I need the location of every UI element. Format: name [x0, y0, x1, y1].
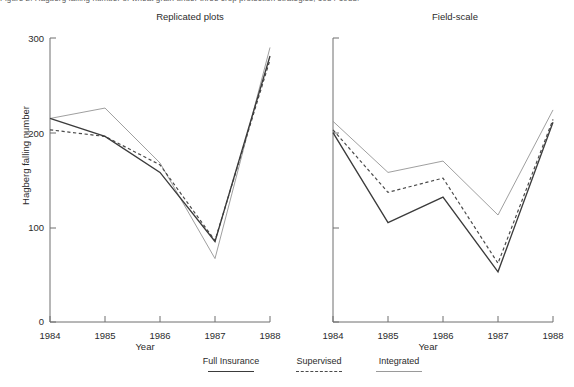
figure-root: Figure 2. Hagberg falling number of whea… — [0, 0, 574, 387]
left-panel-axes — [50, 38, 270, 322]
legend-entry-full-insurance: Full Insurance — [186, 356, 276, 372]
left-panel-series — [50, 47, 270, 258]
series-line-integrated-left — [50, 47, 270, 258]
legend: Full Insurance Supervised Integrated — [186, 356, 446, 384]
legend-entry-supervised: Supervised — [282, 356, 356, 372]
series-line-full-insurance-right — [333, 122, 553, 272]
legend-swatch-integrated — [376, 371, 422, 372]
series-line-supervised-right — [333, 119, 553, 263]
legend-swatch-supervised — [296, 371, 342, 372]
legend-swatch-full-insurance — [208, 371, 254, 372]
legend-label-supervised: Supervised — [282, 356, 356, 367]
right-panel-axes — [333, 38, 553, 322]
right-panel-series — [333, 110, 553, 272]
legend-entry-integrated: Integrated — [362, 356, 436, 372]
chart-canvas — [0, 0, 574, 387]
legend-label-full-insurance: Full Insurance — [186, 356, 276, 367]
series-line-supervised-left — [50, 60, 270, 241]
legend-label-integrated: Integrated — [362, 356, 436, 367]
series-line-integrated-right — [333, 110, 553, 215]
series-line-full-insurance-left — [50, 56, 270, 242]
